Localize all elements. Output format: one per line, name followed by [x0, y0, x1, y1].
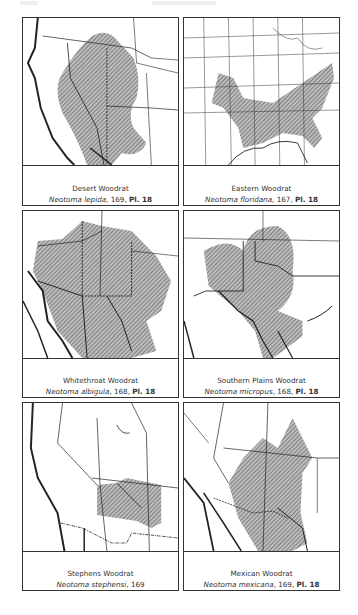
map-caption: Stephens Woodrat Neotoma stephensi, 169 [23, 561, 178, 590]
range-map-panel-eastern-woodrat: Eastern Woodrat Neotoma floridana, 167, … [183, 17, 340, 206]
range-map [23, 403, 178, 552]
plate-reference: Pl. 18 [295, 195, 318, 204]
map-caption: Mexican Woodrat Neotoma mexicana, 169, P… [184, 561, 339, 590]
plate-reference: Pl. 18 [129, 195, 152, 204]
map-caption: Southern Plains Woodrat Neotoma micropus… [184, 368, 339, 397]
range-map [23, 211, 178, 359]
page-reference: , 168, [273, 387, 296, 396]
common-name: Eastern Woodrat [184, 183, 339, 194]
page-reference: , 168, [109, 387, 132, 396]
page-reference: , 169 [126, 580, 144, 589]
range-map-panel-desert-woodrat: Desert Woodrat Neotoma lepida, 169, Pl. … [22, 17, 179, 206]
range-map-panel-southern-plains-woodrat: Southern Plains Woodrat Neotoma micropus… [183, 210, 340, 398]
range-map [184, 211, 339, 359]
common-name: Whitethroat Woodrat [23, 375, 178, 386]
map-caption: Desert Woodrat Neotoma lepida, 169, Pl. … [23, 176, 178, 205]
page-number [20, 1, 38, 5]
plate-reference: Pl. 18 [296, 580, 319, 589]
range-map-panel-mexican-woodrat: Mexican Woodrat Neotoma mexicana, 169, P… [183, 402, 340, 591]
scientific-name: Neotoma albigula [46, 387, 110, 396]
running-title [152, 1, 216, 5]
plate-reference: Pl. 18 [296, 387, 319, 396]
scientific-name: Neotoma mexicana [204, 580, 274, 589]
common-name: Stephens Woodrat [23, 568, 178, 579]
common-name: Mexican Woodrat [184, 568, 339, 579]
range-map [23, 18, 178, 166]
range-map-panel-whitethroat-woodrat: Whitethroat Woodrat Neotoma albigula, 16… [22, 210, 179, 398]
map-caption: Eastern Woodrat Neotoma floridana, 167, … [184, 176, 339, 205]
scientific-name: Neotoma lepida [49, 195, 106, 204]
range-map [184, 403, 339, 552]
map-caption: Whitethroat Woodrat Neotoma albigula, 16… [23, 368, 178, 397]
plate-reference: Pl. 18 [132, 387, 155, 396]
common-name: Desert Woodrat [23, 183, 178, 194]
common-name: Southern Plains Woodrat [184, 375, 339, 386]
page-reference: , 167, [272, 195, 295, 204]
range-map-panel-stephens-woodrat: Stephens Woodrat Neotoma stephensi, 169 [22, 402, 179, 591]
range-map [184, 18, 339, 166]
scientific-name: Neotoma micropus [204, 387, 272, 396]
page-reference: , 169, [106, 195, 129, 204]
scientific-name: Neotoma stephensi [56, 580, 126, 589]
page-header [0, 0, 358, 10]
scientific-name: Neotoma floridana [205, 195, 272, 204]
page-reference: , 169, [274, 580, 297, 589]
